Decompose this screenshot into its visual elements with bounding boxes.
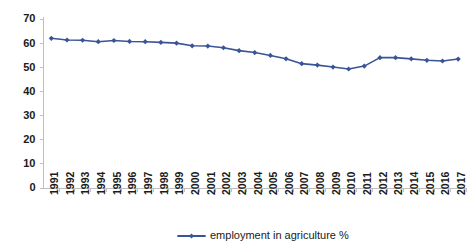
x-tick-label-2000: 2000: [189, 171, 201, 195]
legend-label-employment-in-agriculture: employment in agriculture %: [210, 229, 349, 241]
y-tick-label-10: 10: [23, 157, 35, 169]
x-tick-label-2004: 2004: [252, 171, 264, 195]
y-tick-label-0: 0: [29, 181, 35, 193]
y-tick-label-20: 20: [23, 133, 35, 145]
x-axis: 1991199219931994199519961997199819992000…: [44, 171, 467, 195]
chart-background: [0, 0, 475, 250]
chart-canvas: 010203040506070 199119921993199419951996…: [0, 0, 475, 250]
x-tick-label-2006: 2006: [283, 171, 295, 195]
x-tick-label-2016: 2016: [439, 171, 451, 195]
x-tick-label-2009: 2009: [330, 171, 342, 195]
x-tick-label-1991: 1991: [48, 171, 60, 195]
x-tick-label-2002: 2002: [220, 171, 232, 195]
y-tick-label-30: 30: [23, 109, 35, 121]
x-tick-label-1992: 1992: [64, 171, 76, 195]
x-tick-label-1996: 1996: [126, 171, 138, 195]
x-tick-label-2001: 2001: [205, 171, 217, 195]
x-tick-label-2015: 2015: [424, 171, 436, 195]
x-tick-label-2012: 2012: [377, 171, 389, 195]
y-tick-label-60: 60: [23, 37, 35, 49]
y-tick-label-40: 40: [23, 85, 35, 97]
x-tick-label-1995: 1995: [111, 171, 123, 195]
x-tick-label-2011: 2011: [361, 172, 373, 195]
x-tick-label-1998: 1998: [158, 171, 170, 195]
x-tick-label-1999: 1999: [173, 171, 185, 195]
x-tick-label-2003: 2003: [236, 171, 248, 195]
x-tick-label-2014: 2014: [408, 171, 420, 195]
x-tick-label-1997: 1997: [142, 171, 154, 195]
y-tick-label-50: 50: [23, 61, 35, 73]
x-tick-label-2008: 2008: [314, 171, 326, 195]
x-tick-label-2007: 2007: [298, 171, 310, 195]
line-chart: 010203040506070 199119921993199419951996…: [0, 0, 475, 250]
y-tick-label-70: 70: [23, 12, 35, 24]
x-tick-label-2010: 2010: [345, 171, 357, 195]
x-tick-label-1994: 1994: [95, 171, 107, 195]
x-tick-label-2017: 2017: [455, 171, 467, 195]
x-tick-label-1993: 1993: [79, 171, 91, 195]
x-tick-label-2005: 2005: [267, 171, 279, 195]
x-tick-label-2013: 2013: [392, 171, 404, 195]
